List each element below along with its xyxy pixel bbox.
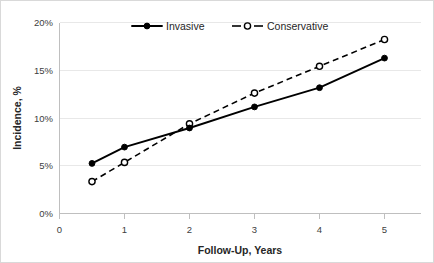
series-invasive-point	[317, 85, 323, 91]
gridlines	[60, 23, 422, 166]
series-invasive-line	[92, 58, 385, 163]
series-conservative-point	[89, 179, 95, 185]
series-invasive-point	[89, 161, 95, 167]
x-tick-label-3: 3	[252, 224, 257, 235]
series-conservative	[89, 36, 388, 184]
series-conservative-point	[121, 159, 127, 165]
y-tick-label-10: 10%	[34, 113, 54, 124]
series-conservative-line	[92, 40, 385, 182]
series-invasive-point	[187, 125, 193, 131]
x-tick-label-0: 0	[57, 224, 62, 235]
legend-label-conservative: Conservative	[267, 20, 328, 32]
legend-label-invasive: Invasive	[166, 20, 205, 32]
series-invasive-point	[252, 104, 258, 110]
series-conservative-point	[316, 63, 322, 69]
x-tick-label-1: 1	[122, 224, 127, 235]
series-invasive-point	[122, 144, 128, 150]
y-tick-label-0: 0%	[39, 208, 53, 219]
x-axis-title: Follow-Up, Years	[198, 244, 283, 256]
legend-item-invasive[interactable]: Invasive	[132, 20, 205, 32]
chart-figure: 20% 15% 10% 5% 0% 0 1 2 3 4 5 Incidence,…	[0, 0, 434, 263]
x-tick-label-4: 4	[317, 224, 322, 235]
x-tick-marks	[60, 214, 385, 219]
line-chart: 20% 15% 10% 5% 0% 0 1 2 3 4 5 Incidence,…	[1, 1, 434, 263]
x-tick-label-2: 2	[187, 224, 192, 235]
chart-legend: Invasive Conservative	[132, 20, 328, 32]
legend-marker-filled-circle-icon	[144, 23, 150, 29]
series-conservative-point	[251, 90, 257, 96]
legend-marker-open-circle-icon	[244, 23, 250, 29]
series-conservative-point	[381, 36, 387, 42]
legend-item-conservative[interactable]: Conservative	[232, 20, 328, 32]
x-tick-label-5: 5	[382, 224, 387, 235]
series-invasive-point	[382, 55, 388, 61]
y-tick-labels: 20% 15% 10% 5% 0%	[34, 17, 54, 219]
series-invasive	[89, 55, 387, 166]
x-tick-labels: 0 1 2 3 4 5	[57, 224, 387, 235]
y-axis-title: Incidence, %	[11, 86, 23, 150]
y-tick-label-20: 20%	[34, 17, 54, 28]
y-tick-label-15: 15%	[34, 65, 54, 76]
y-tick-label-5: 5%	[39, 160, 53, 171]
